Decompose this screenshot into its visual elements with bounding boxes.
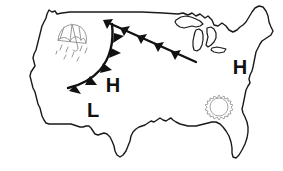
us-country-outline xyxy=(30,6,273,158)
pressure-label-high-east: H xyxy=(233,56,247,78)
weather-map-canvas: H L H xyxy=(0,0,283,171)
pressure-label-high-central: H xyxy=(106,74,120,96)
weather-map: H L H xyxy=(0,0,283,171)
lake-erie-ontario xyxy=(211,47,226,53)
us-border-path xyxy=(30,6,273,158)
pressure-label-low-southwest: L xyxy=(87,99,99,121)
